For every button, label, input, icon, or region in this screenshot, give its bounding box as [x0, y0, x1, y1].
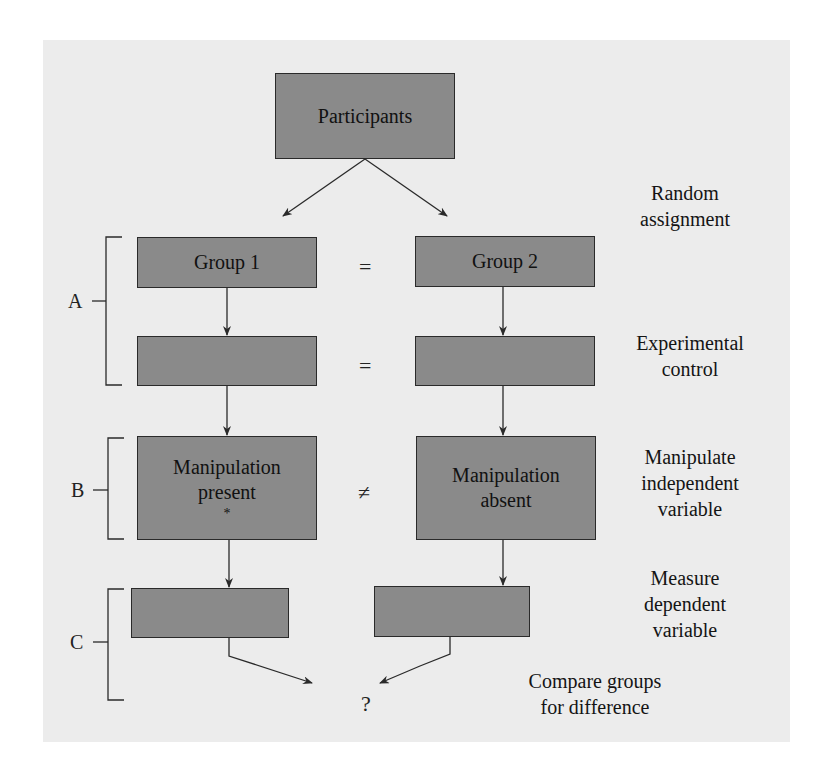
bracket-label-b: B: [71, 480, 84, 500]
manipulation-absent-box: Manipulation absent: [416, 436, 596, 540]
manipulation-present-box: Manipulation present *: [137, 436, 317, 540]
measure-left-box: [131, 588, 289, 638]
group2-label: Group 2: [472, 249, 538, 274]
step-label-compare-groups: Compare groups for difference: [505, 668, 685, 720]
manipulation-absent-line2: absent: [480, 488, 531, 513]
participants-label: Participants: [318, 104, 412, 129]
measure-right-box: [374, 586, 530, 637]
bracket-label-a: A: [68, 291, 82, 311]
not-equal-symbol: ≠: [358, 482, 370, 504]
manipulation-absent-line1: Manipulation: [452, 463, 560, 488]
question-mark: ?: [361, 693, 371, 715]
control-left-box: [137, 336, 317, 386]
group1-box: Group 1: [137, 237, 317, 288]
asterisk-mark: *: [224, 507, 231, 521]
step-label-random-assignment: Random assignment: [615, 180, 755, 232]
equals-symbol-row2: =: [359, 355, 371, 377]
manipulation-present-line1: Manipulation: [173, 455, 281, 480]
participants-box: Participants: [275, 73, 455, 159]
bracket-label-c: C: [70, 632, 83, 652]
control-right-box: [415, 336, 595, 386]
group2-box: Group 2: [415, 236, 595, 287]
step-label-manipulate-iv: Manipulate independent variable: [610, 444, 770, 522]
equals-symbol-row1: =: [359, 256, 371, 278]
step-label-measure-dv: Measure dependent variable: [605, 565, 765, 643]
manipulation-present-line2: present: [198, 480, 256, 505]
group1-label: Group 1: [194, 250, 260, 275]
step-label-experimental-control: Experimental control: [610, 330, 770, 382]
